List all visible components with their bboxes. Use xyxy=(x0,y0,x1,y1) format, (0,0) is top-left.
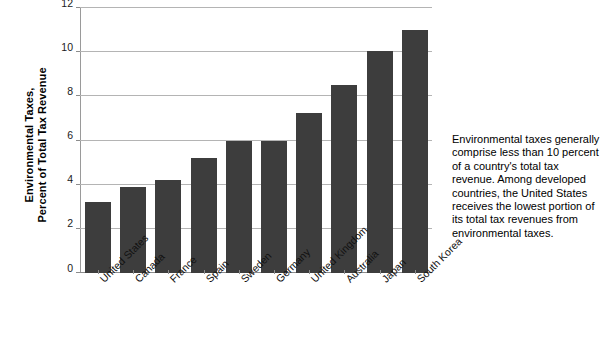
y-tick-label-10: 10 xyxy=(61,41,73,52)
y-tick-label-6: 6 xyxy=(67,130,73,141)
bar xyxy=(402,30,428,273)
bar-chart-figure: Environmental Taxes, Percent of Total Ta… xyxy=(0,0,612,352)
bar xyxy=(367,51,393,273)
y-tick-mark-8 xyxy=(76,95,80,96)
y-tick-mark-0 xyxy=(76,272,80,273)
x-label-slot: France xyxy=(151,274,186,352)
y-tick-label-4: 4 xyxy=(67,174,73,185)
bar-slot xyxy=(292,8,327,273)
x-axis-tick-labels: United StatesCanadaFranceSpainSwedenGerm… xyxy=(81,274,433,352)
x-label-slot: Spain xyxy=(187,274,222,352)
bar xyxy=(191,158,217,273)
y-tick-mark-2 xyxy=(76,228,80,229)
y-tick-label-0: 0 xyxy=(67,262,73,273)
x-label-slot: United Kingdom xyxy=(292,274,327,352)
x-label-slot: Sweden xyxy=(222,274,257,352)
y-tick-mark-6 xyxy=(76,140,80,141)
y-axis-title: Environmental Taxes, Percent of Total Ta… xyxy=(12,0,60,290)
x-label-slot: South Korea xyxy=(398,274,433,352)
x-label-slot: Canada xyxy=(116,274,151,352)
bar xyxy=(226,141,252,274)
side-note-text: Environmental taxes generally comprise l… xyxy=(452,133,604,240)
x-label-slot: Japan xyxy=(363,274,398,352)
bars-group xyxy=(81,8,432,273)
x-label-slot: United States xyxy=(81,274,116,352)
bar-slot xyxy=(222,8,257,273)
y-tick-mark-12 xyxy=(76,7,80,8)
y-tick-label-8: 8 xyxy=(67,86,73,97)
y-tick-label-2: 2 xyxy=(67,218,73,229)
bar-slot xyxy=(187,8,222,273)
x-label-slot: Australia xyxy=(327,274,362,352)
y-axis-title-line-1: Environmental Taxes, xyxy=(23,88,36,203)
y-tick-mark-4 xyxy=(76,184,80,185)
bar-slot xyxy=(398,8,433,273)
bar-slot xyxy=(116,8,151,273)
bar-slot xyxy=(257,8,292,273)
bar-slot xyxy=(81,8,116,273)
y-tick-mark-10 xyxy=(76,51,80,52)
y-axis-title-line-2: Percent of Total Tax Revenue xyxy=(36,67,49,222)
bar-slot xyxy=(151,8,186,273)
x-label-slot: Germany xyxy=(257,274,292,352)
plot-area: 024681012 xyxy=(80,8,432,273)
y-tick-label-12: 12 xyxy=(61,0,73,8)
bar xyxy=(85,202,111,273)
